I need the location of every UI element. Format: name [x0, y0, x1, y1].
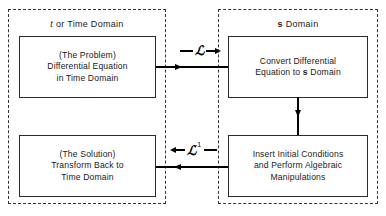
operator-tick-line-left	[176, 149, 185, 151]
operator-tick-line	[180, 50, 193, 52]
box-problem-differential-equation: (The Problem) Differential Equation in T…	[19, 36, 156, 98]
operator-laplace-transform: ℒ	[180, 44, 221, 58]
laplace-flow-diagram: t or Time Domain s Domain (The Problem) …	[0, 0, 386, 216]
arrow-left-icon	[174, 164, 181, 170]
box-solution-text: (The Solution) Transform Back to Time Do…	[48, 149, 126, 184]
region-s-domain-label: s Domain	[219, 19, 377, 29]
region-time-domain-label: t or Time Domain	[9, 19, 165, 29]
inverse-laplace-symbol-icon: ℒ-1	[185, 141, 204, 157]
box-convert-line2-suffix: Domain	[308, 67, 341, 77]
box-convert-line1: Convert Differential	[260, 56, 336, 66]
connector-forward-flow	[156, 66, 228, 68]
operator-inverse-laplace-transform: ℒ-1	[170, 143, 217, 157]
region-s-domain-label-text: Domain	[283, 19, 319, 29]
box-convert-text: Convert DifferentialEquation to s Domain	[252, 56, 344, 79]
laplace-symbol-icon: ℒ	[193, 44, 206, 57]
operator-tick-line	[204, 149, 217, 151]
box-solution-transform-back: (The Solution) Transform Back to Time Do…	[19, 135, 156, 197]
box-insert-text: Insert Initial Conditions and Perform Al…	[250, 149, 347, 184]
inverse-laplace-exponent: -1	[195, 141, 201, 148]
arrow-down-icon	[295, 110, 301, 117]
operator-tick-line-right	[206, 50, 215, 52]
arrow-right-icon	[175, 64, 182, 70]
box-problem-text: (The Problem) Differential Equation in T…	[44, 50, 130, 85]
connector-return-flow	[156, 166, 228, 168]
arrow-right-icon	[215, 48, 221, 54]
region-time-domain-label-text: or Time Domain	[53, 19, 124, 29]
box-insert-initial-conditions: Insert Initial Conditions and Perform Al…	[228, 135, 368, 197]
box-convert-line2-prefix: Equation to	[255, 67, 303, 77]
box-convert-to-s-domain: Convert DifferentialEquation to s Domain	[228, 36, 368, 98]
